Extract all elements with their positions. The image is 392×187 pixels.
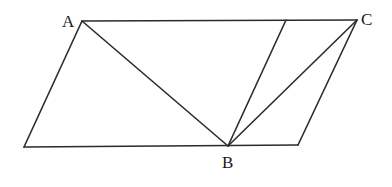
segment-ec: [298, 20, 357, 145]
segment-ac: [82, 20, 357, 21]
label-c: C: [361, 10, 372, 29]
segment-de: [24, 145, 298, 147]
segment-ad: [24, 21, 82, 147]
label-a: A: [62, 12, 75, 31]
label-b: B: [222, 153, 233, 172]
segment-bc: [228, 20, 357, 146]
segment-ab: [82, 21, 228, 146]
segment-bf: [228, 20, 286, 146]
geometry-diagram: A C B: [0, 0, 392, 187]
segments: [24, 20, 357, 147]
